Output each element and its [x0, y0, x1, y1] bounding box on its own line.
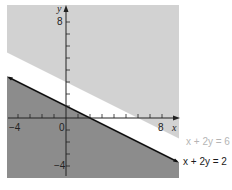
y-tick-label-8: 8	[57, 16, 63, 27]
y-tick-label-neg4: −4	[54, 160, 66, 171]
line-label-x-plus-2y-2: x + 2y = 2	[183, 156, 227, 167]
inequality-graph: −4 0 8 8 −4 x y x + 2y = 6 x + 2y = 2	[0, 0, 232, 190]
y-axis-label: y	[56, 3, 62, 14]
x-tick-label-8: 8	[158, 122, 164, 133]
line-label-x-plus-2y-6: x + 2y = 6	[186, 136, 230, 147]
x-tick-label-0: 0	[59, 122, 65, 133]
x-tick-label-neg4: −4	[9, 122, 21, 133]
x-axis-label: x	[171, 122, 177, 133]
